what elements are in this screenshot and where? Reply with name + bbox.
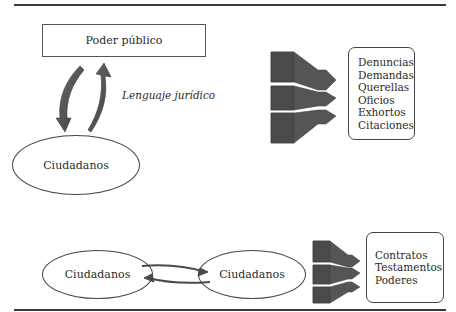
curved-arrow-up-icon xyxy=(88,63,111,132)
list-item: Poderes xyxy=(375,274,443,287)
list-item: Denuncias xyxy=(358,56,414,69)
list-item: Contratos xyxy=(375,249,443,262)
document-flow-arrows-bottom-icon xyxy=(313,241,360,303)
list-item: Demandas xyxy=(358,69,414,82)
citizens-ellipse-left: Ciudadanos xyxy=(42,250,153,299)
citizens-label-top: Ciudadanos xyxy=(43,159,109,172)
relation-label: Lenguaje jurídico xyxy=(122,89,215,101)
document-list-bottom: Contratos Testamentos Poderes xyxy=(366,232,444,303)
citizens-ellipse-top: Ciudadanos xyxy=(12,135,140,195)
citizens-label-right: Ciudadanos xyxy=(219,268,285,281)
curved-arrow-down-icon xyxy=(56,66,84,132)
authority-label: Poder público xyxy=(86,34,163,47)
list-item: Querellas xyxy=(358,81,414,94)
list-item: Citaciones xyxy=(358,119,414,132)
authority-box: Poder público xyxy=(42,24,206,57)
list-item: Testamentos xyxy=(375,261,443,274)
list-item: Exhortos xyxy=(358,106,414,119)
citizens-label-left: Ciudadanos xyxy=(65,268,131,281)
document-flow-arrows-top-icon xyxy=(271,52,336,143)
document-list-top: Denuncias Demandas Querellas Oficios Exh… xyxy=(348,47,415,140)
citizens-ellipse-right: Ciudadanos xyxy=(198,250,306,299)
list-item: Oficios xyxy=(358,94,414,107)
